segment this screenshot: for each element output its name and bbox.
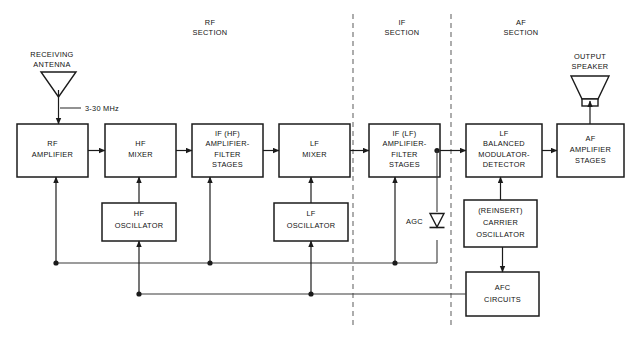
output-speaker-label: OUTPUT SPEAKER [571,52,608,71]
block-lf-balanced-modulator-detector-line2: BALANCED [483,139,525,148]
block-if-lf-stages-line2: AMPLIFIER- [383,139,427,148]
block-hf-oscillator-line1: HF [134,209,145,218]
block-rf-amplifier-line1: RF [47,139,58,148]
block-lf-oscillator-line1: LF [306,209,315,218]
block-lf-oscillator-line2: OSCILLATOR [287,221,336,230]
block-if-hf-stages-line1: IF (HF) [215,129,240,138]
input-frequency-label: 3-30 MHz [85,104,119,113]
block-rf-amplifier-line2: AMPLIFIER [32,150,73,159]
section-label-if-line1: IF [398,18,405,27]
section-label-if-line2: SECTION [385,28,420,37]
receiver-block-diagram: RF SECTION IF SECTION AF SECTION RECEIVI… [0,0,644,349]
block-hf-mixer-line2: MIXER [128,150,153,159]
block-if-hf-stages-line2: AMPLIFIER- [206,139,250,148]
agc-label: AGC [406,217,423,226]
block-if-lf-stages-line4: STAGES [389,160,420,169]
block-lf-balanced-modulator-detector-line4: DETECTOR [483,160,526,169]
block-if-lf-stages-line1: IF (LF) [393,129,417,138]
block-if-hf-stages-line4: STAGES [212,160,243,169]
junction-afc-lfosc [308,291,313,296]
receiving-antenna-label: RECEIVING ANTENNA [30,50,73,69]
block-hf-mixer-line1: HF [135,139,146,148]
block-lf-mixer-line2: MIXER [302,150,327,159]
section-label-af-line2: SECTION [504,28,539,37]
junction-agc-rfamp [53,260,58,265]
output-speaker-label-line1: OUTPUT [574,52,606,61]
block-lf-balanced-modulator-detector-line3: MODULATOR- [478,150,530,159]
junction-agc-ifhf [207,260,212,265]
junction-agc-iflf [392,260,397,265]
section-label-af-line1: AF [516,18,526,27]
output-speaker-label-line2: SPEAKER [571,62,608,71]
block-reinsert-carrier-oscillator-line2: CARRIER [483,218,518,227]
section-label-rf-line1: RF [205,18,216,27]
receiving-antenna-label-line1: RECEIVING [30,50,73,59]
receiving-antenna-label-line2: ANTENNA [33,60,70,69]
block-afc-circuits-line1: AFC [495,283,511,292]
block-lf-balanced-modulator-detector-line1: LF [499,129,508,138]
section-label-rf-line2: SECTION [193,28,228,37]
block-reinsert-carrier-oscillator-line3: OSCILLATOR [476,230,525,239]
junction-afc-hfosc [136,291,141,296]
block-if-hf-stages-line3: FILTER [214,150,240,159]
block-af-amplifier-stages-line2: AMPLIFIER [570,145,611,154]
block-hf-oscillator-line2: OSCILLATOR [115,221,164,230]
block-reinsert-carrier-oscillator-line1: (REINSERT) [478,206,523,215]
block-afc-circuits-line2: CIRCUITS [484,295,521,304]
block-af-amplifier-stages-line3: STAGES [575,156,606,165]
block-if-lf-stages-line3: FILTER [391,150,417,159]
block-af-amplifier-stages-line1: AF [586,134,596,143]
block-lf-mixer-line1: LF [310,139,319,148]
